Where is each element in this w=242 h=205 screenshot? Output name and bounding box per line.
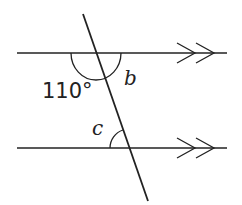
- angle-arc-110: [71, 53, 121, 80]
- angle-arc-c: [110, 130, 123, 148]
- angle-label-b: b: [124, 66, 137, 90]
- angle-label-c: c: [92, 116, 103, 140]
- transversal-line: [83, 14, 148, 201]
- angle-label-110: 110°: [42, 79, 93, 103]
- diagram-canvas: 110° b c: [0, 0, 242, 205]
